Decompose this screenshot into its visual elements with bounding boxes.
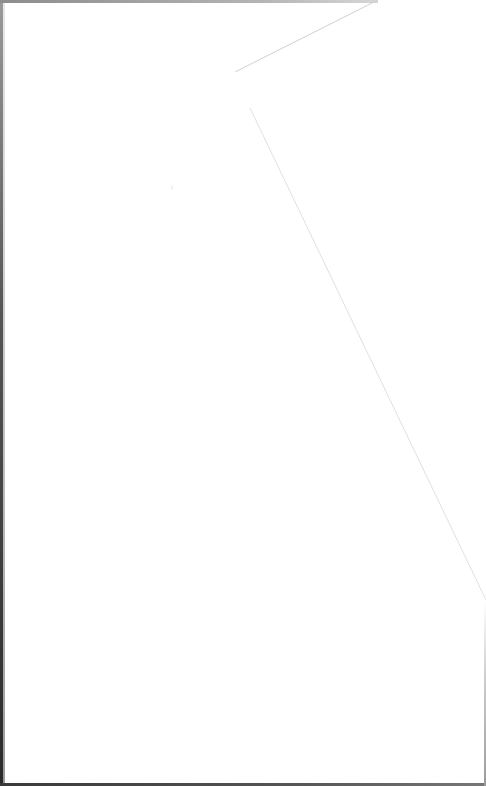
scanned-blank-page (0, 0, 486, 786)
fold-line-diagonal (250, 108, 486, 600)
paper-fold-lines (0, 0, 486, 786)
fold-line-top (235, 0, 378, 72)
